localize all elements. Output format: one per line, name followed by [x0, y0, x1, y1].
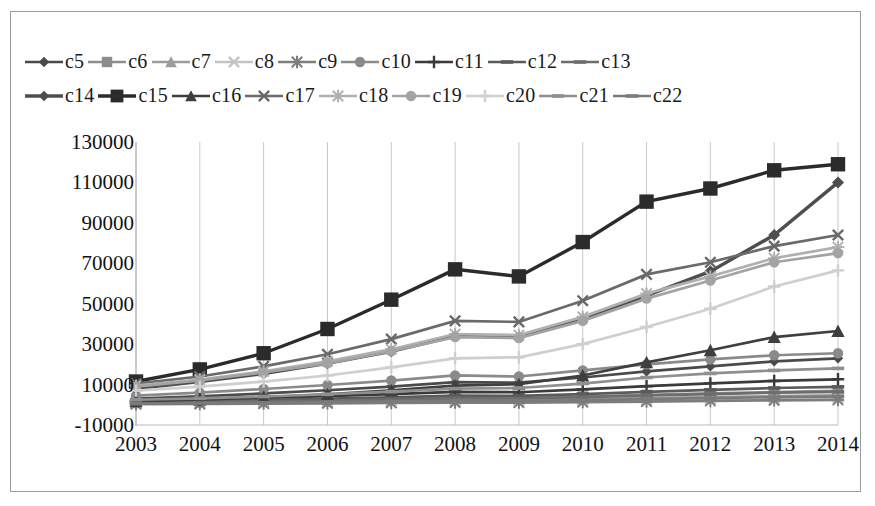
legend-item-c7[interactable]: c7	[152, 50, 215, 73]
legend-item-c16[interactable]: c16	[172, 84, 245, 107]
legend-swatch	[561, 54, 599, 68]
x-tick-label: 2003	[115, 432, 157, 457]
legend-label: c8	[255, 50, 274, 73]
series-marker	[332, 90, 344, 102]
y-tick-label: 130000	[71, 130, 134, 155]
legend-label: c18	[359, 84, 388, 107]
x-tick-label: 2008	[434, 432, 476, 457]
series-marker	[626, 94, 638, 98]
legend-label: c17	[285, 84, 314, 107]
x-tick-label: 2006	[306, 432, 348, 457]
y-tick-label: 30000	[82, 332, 135, 357]
series-marker	[574, 60, 586, 64]
legend-item-c8[interactable]: c8	[215, 50, 278, 73]
x-tick-label: 2012	[689, 432, 731, 457]
legend-swatch	[215, 54, 253, 68]
legend-item-c20[interactable]: c20	[466, 84, 539, 107]
legend-item-c19[interactable]: c19	[392, 84, 465, 107]
y-tick-label: 90000	[82, 210, 135, 235]
series-marker	[552, 94, 564, 98]
legend-swatch	[415, 54, 453, 68]
legend-item-c21[interactable]: c21	[539, 84, 612, 107]
legend-item-c9[interactable]: c9	[278, 50, 341, 73]
y-tick-label: 110000	[72, 170, 134, 195]
legend-swatch	[152, 54, 190, 68]
legend-item-c22[interactable]: c22	[613, 84, 686, 107]
chart-frame: c5c6c7c8c9c10c11c12c13c14c15c16c17c18c19…	[10, 11, 861, 492]
legend-label: c16	[212, 84, 241, 107]
y-tick-label: 50000	[82, 291, 135, 316]
legend-swatch	[539, 88, 577, 102]
series-marker	[291, 56, 303, 68]
legend-item-c18[interactable]: c18	[319, 84, 392, 107]
legend-swatch	[319, 88, 357, 102]
legend-item-c17[interactable]: c17	[245, 84, 318, 107]
legend-row: c5c6c7c8c9c10c11c12c13	[25, 44, 847, 78]
legend-label: c22	[653, 84, 682, 107]
legend-label: c11	[455, 50, 484, 73]
x-tick-label: 2014	[817, 432, 859, 457]
legend-swatch	[245, 88, 283, 102]
legend-swatch	[172, 88, 210, 102]
legend-label: c19	[432, 84, 461, 107]
legend-item-c12[interactable]: c12	[488, 50, 561, 73]
legend-label: c13	[601, 50, 630, 73]
x-tick-label: 2004	[179, 432, 221, 457]
legend-label: c10	[381, 50, 410, 73]
x-tick-label: 2007	[370, 432, 412, 457]
series-marker	[428, 56, 440, 68]
legend-label: c7	[192, 50, 211, 73]
legend-swatch	[278, 54, 316, 68]
legend-label: c9	[318, 50, 337, 73]
x-axis-tick-labels: 2003200420052006200720082009201020112012…	[0, 430, 875, 460]
legend-swatch	[613, 88, 651, 102]
x-tick-label: 2013	[753, 432, 795, 457]
series-marker	[355, 57, 365, 67]
series-marker	[406, 91, 416, 101]
legend-row: c14c15c16c17c18c19c20c21c22	[25, 78, 847, 112]
x-tick-label: 2005	[243, 432, 285, 457]
legend-swatch	[488, 54, 526, 68]
legend-swatch	[341, 54, 379, 68]
legend-swatch	[466, 88, 504, 102]
y-tick-label: 10000	[82, 372, 135, 397]
legend-item-c13[interactable]: c13	[561, 50, 634, 73]
chart-legend: c5c6c7c8c9c10c11c12c13c14c15c16c17c18c19…	[25, 44, 847, 112]
x-tick-label: 2011	[626, 432, 667, 457]
series-marker	[479, 90, 491, 102]
x-tick-label: 2009	[498, 432, 540, 457]
legend-label: c20	[506, 84, 535, 107]
y-tick-label: 70000	[82, 251, 135, 276]
x-tick-label: 2010	[562, 432, 604, 457]
legend-label: c15	[138, 84, 167, 107]
legend-swatch	[392, 88, 430, 102]
legend-item-c10[interactable]: c10	[341, 50, 414, 73]
legend-item-c11[interactable]: c11	[415, 50, 488, 73]
legend-label: c21	[579, 84, 608, 107]
legend-label: c12	[528, 50, 557, 73]
series-marker	[500, 60, 512, 64]
